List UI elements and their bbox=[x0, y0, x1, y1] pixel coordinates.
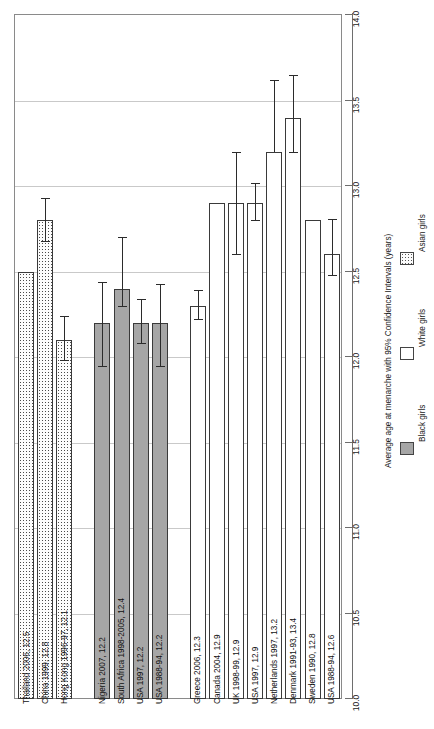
error-bar-cap bbox=[251, 183, 260, 184]
error-bar-cap bbox=[41, 241, 50, 242]
axis-title: Average age at menarche with 95% Confide… bbox=[384, 234, 393, 468]
error-bar-cap bbox=[232, 152, 241, 153]
error-bar bbox=[236, 152, 237, 255]
category-label: USA 1997, 12.2 bbox=[136, 647, 145, 704]
category-label: South Africa 1998-2005, 12.4 bbox=[117, 598, 126, 704]
legend-swatch bbox=[400, 442, 414, 455]
category-label: USA 1997, 12.9 bbox=[251, 647, 260, 704]
error-bar-cap bbox=[232, 254, 241, 255]
error-bar bbox=[274, 80, 275, 152]
axis-tick-label: 10.5 bbox=[351, 609, 361, 626]
error-bar-cap bbox=[60, 360, 69, 361]
bar bbox=[133, 323, 149, 699]
error-bar bbox=[122, 237, 123, 305]
error-bar-cap bbox=[251, 220, 260, 221]
error-bar bbox=[160, 284, 161, 366]
axis-tick-label: 13.5 bbox=[351, 96, 361, 113]
gridline bbox=[15, 101, 341, 102]
error-bar bbox=[293, 75, 294, 152]
bar bbox=[324, 254, 340, 699]
axis-tick-label: 10.0 bbox=[351, 695, 361, 712]
legend-swatch bbox=[400, 347, 414, 360]
legend-label: White girls bbox=[418, 309, 427, 347]
bar bbox=[285, 118, 301, 699]
category-label: Nigeria 2007, 12.2 bbox=[98, 637, 107, 704]
legend-item: Asian girls bbox=[398, 196, 432, 276]
axis-tick-label: 12.0 bbox=[351, 353, 361, 370]
category-label: Canada 2004, 12.9 bbox=[213, 634, 222, 704]
error-bar bbox=[141, 299, 142, 344]
legend-label: Asian girls bbox=[418, 214, 427, 252]
error-bar-cap bbox=[194, 319, 203, 320]
error-bar bbox=[64, 316, 65, 361]
error-bar-cap bbox=[98, 282, 107, 283]
error-bar-cap bbox=[156, 366, 165, 367]
error-bar bbox=[45, 198, 46, 241]
error-bar bbox=[255, 183, 256, 221]
category-label: USA 1988-94, 12.2 bbox=[155, 635, 164, 704]
legend-item: White girls bbox=[398, 291, 432, 371]
category-label: Netherlands 1997, 13.2 bbox=[270, 619, 279, 704]
category-label: Denmark 1991-93, 13.4 bbox=[289, 618, 298, 704]
error-bar-cap bbox=[98, 366, 107, 367]
error-bar-cap bbox=[137, 343, 146, 344]
axis-tick-label: 13.0 bbox=[351, 182, 361, 199]
error-bar-cap bbox=[328, 219, 337, 220]
error-bar-cap bbox=[328, 275, 337, 276]
error-bar-cap bbox=[156, 284, 165, 285]
category-label: UK 1998-99, 12.9 bbox=[232, 640, 241, 704]
error-bar-cap bbox=[289, 75, 298, 76]
axis-tick-label: 14.0 bbox=[351, 11, 361, 28]
category-label: USA 1988-94, 12.6 bbox=[327, 635, 336, 704]
error-bar-cap bbox=[60, 316, 69, 317]
bar bbox=[247, 203, 263, 699]
error-bar-cap bbox=[289, 152, 298, 153]
error-bar-cap bbox=[194, 290, 203, 291]
error-bar-cap bbox=[118, 306, 127, 307]
error-bar-cap bbox=[118, 237, 127, 238]
bar bbox=[209, 203, 225, 699]
axis-tick-label: 11.5 bbox=[351, 439, 361, 455]
axis-tick-label: 11.0 bbox=[351, 524, 361, 540]
category-label: Sweden 1990, 12.8 bbox=[308, 633, 317, 704]
error-bar bbox=[102, 282, 103, 366]
category-label: Thailand 2006, 12.5 bbox=[22, 632, 31, 704]
bar bbox=[305, 220, 321, 699]
error-bar bbox=[332, 219, 333, 275]
axis-tick-label: 12.5 bbox=[351, 267, 361, 284]
legend-label: Black girls bbox=[418, 405, 427, 442]
chart-plot-area: Thailand 2006, 12.5China 1999, 12.8Hong … bbox=[14, 14, 342, 699]
category-label: Greece 2006, 12.3 bbox=[193, 636, 202, 704]
bar bbox=[228, 203, 244, 699]
category-label: Hong Kong 1996-97, 12.1 bbox=[60, 610, 69, 704]
category-label: China 1999, 12.8 bbox=[41, 642, 50, 704]
error-bar-cap bbox=[137, 299, 146, 300]
legend-item: Black girls bbox=[398, 386, 432, 466]
legend-swatch bbox=[400, 252, 414, 265]
error-bar bbox=[198, 290, 199, 319]
bar bbox=[37, 220, 53, 699]
bar bbox=[266, 152, 282, 699]
error-bar-cap bbox=[270, 80, 279, 81]
chart-legend: Black girlsWhite girlsAsian girls bbox=[398, 196, 432, 456]
error-bar-cap bbox=[41, 198, 50, 199]
